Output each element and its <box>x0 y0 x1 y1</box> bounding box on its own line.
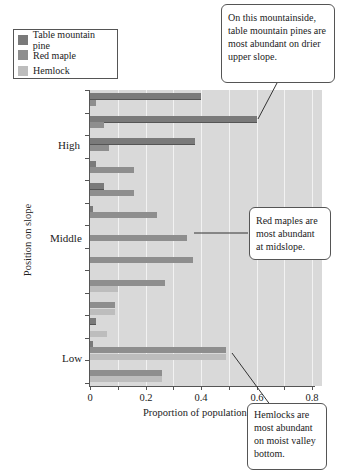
x-tick <box>257 386 258 390</box>
y-tick <box>85 225 89 226</box>
x-tick <box>118 386 119 390</box>
y-tick <box>85 338 89 339</box>
x-tick <box>90 386 91 390</box>
y-label-high: High <box>58 139 80 151</box>
y-tick <box>85 180 89 181</box>
x-tick-label: 0.8 <box>305 392 318 403</box>
x-tick-label: 0.6 <box>250 392 263 403</box>
x-tick <box>173 386 174 390</box>
bar-table-mountain-pine <box>90 318 96 325</box>
maple-swatch-icon <box>18 50 28 60</box>
bar-red-maple <box>90 212 157 218</box>
y-label-middle: Middle <box>50 232 82 244</box>
bar-table-mountain-pine <box>90 93 201 100</box>
legend-label: Table mountain pine <box>33 29 113 51</box>
y-tick <box>85 270 89 271</box>
bar-red-maple <box>90 145 109 151</box>
bar-table-mountain-pine <box>90 116 257 123</box>
gridline <box>229 90 230 386</box>
x-tick <box>284 386 285 390</box>
x-axis <box>89 386 315 387</box>
x-tick-label: 0 <box>87 392 92 403</box>
y-tick <box>85 90 89 91</box>
legend-label: Hemlock <box>33 65 70 76</box>
x-tick-label: 0.4 <box>194 392 207 403</box>
bar-hemlock <box>90 331 107 337</box>
bar-hemlock <box>90 309 115 315</box>
x-tick <box>229 386 230 390</box>
y-axis-title: Position on slope <box>22 204 33 276</box>
bar-red-maple <box>90 122 104 128</box>
hemlock-swatch-icon <box>18 66 28 76</box>
y-tick <box>85 113 89 114</box>
callout-maple: Red maples are most abundant at midslope… <box>249 207 331 260</box>
y-tick <box>85 158 89 159</box>
x-tick <box>146 386 147 390</box>
legend-item-hemlock: Hemlock <box>18 63 113 79</box>
x-axis-title: Proportion of population <box>143 407 247 418</box>
bar-red-maple <box>90 190 134 196</box>
callout-pine: On this mountainside, table mountain pin… <box>221 4 335 83</box>
x-tick <box>201 386 202 390</box>
y-label-low: Low <box>62 352 82 364</box>
bar-red-maple <box>90 347 226 353</box>
y-tick <box>85 360 89 361</box>
bar-red-maple <box>90 100 96 106</box>
gridline <box>201 90 202 386</box>
y-tick <box>85 315 89 316</box>
bar-hemlock <box>90 376 162 382</box>
y-tick <box>85 135 89 136</box>
y-tick <box>85 248 89 249</box>
bar-hemlock <box>90 286 118 292</box>
pine-swatch-icon <box>18 35 28 45</box>
x-tick-label: 0.2 <box>139 392 152 403</box>
x-tick <box>312 386 313 390</box>
bar-red-maple <box>90 370 162 376</box>
bar-red-maple <box>90 235 187 241</box>
bar-hemlock <box>90 354 226 360</box>
y-tick <box>85 293 89 294</box>
y-tick <box>85 203 89 204</box>
bar-red-maple <box>90 257 193 263</box>
legend-label: Red maple <box>33 50 76 61</box>
legend-item-pine: Table mountain pine <box>18 32 113 48</box>
bar-red-maple <box>90 302 115 308</box>
y-tick <box>85 383 89 384</box>
bar-red-maple <box>90 280 165 286</box>
chart-legend: Table mountain pine Red maple Hemlock <box>13 29 118 79</box>
y-axis <box>89 90 90 386</box>
callout-hemlock: Hemlocks are most abundant on moist vall… <box>247 403 327 470</box>
bar-red-maple <box>90 167 134 173</box>
